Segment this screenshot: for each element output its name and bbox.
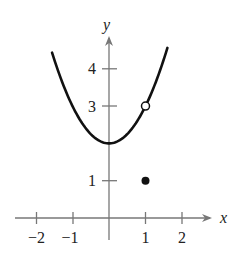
y-axis-label: y [101, 16, 111, 34]
filled-point [142, 177, 150, 185]
y-tick-label: 1 [88, 172, 96, 189]
open-circle-point [142, 102, 150, 110]
graph: −2 −1 1 2 4 3 1 x y [0, 0, 242, 258]
x-axis-label: x [219, 209, 227, 226]
y-tick-label: 4 [88, 60, 96, 77]
y-tick-label: 3 [88, 98, 96, 115]
x-tick-label: −2 [28, 229, 45, 246]
parabola-curve [52, 48, 167, 143]
x-tick-label: 1 [142, 229, 150, 246]
x-tick-label: 2 [178, 229, 186, 246]
x-tick-label: −1 [61, 229, 78, 246]
